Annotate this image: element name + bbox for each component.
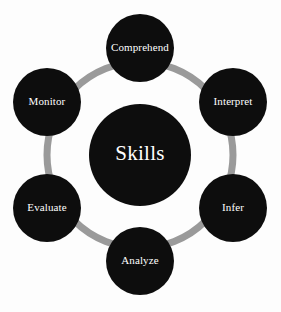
node-label-interpret: Interpret <box>214 95 253 107</box>
node-label-evaluate: Evaluate <box>27 201 66 213</box>
node-label-analyze: Analyze <box>121 254 158 266</box>
hub-label: Skills <box>115 141 165 165</box>
node-label-monitor: Monitor <box>29 95 66 107</box>
skills-cycle-diagram: ComprehendInterpretInferAnalyzeEvaluateM… <box>0 0 281 312</box>
node-label-infer: Infer <box>222 201 244 213</box>
node-label-comprehend: Comprehend <box>111 41 169 53</box>
diagram-canvas: ComprehendInterpretInferAnalyzeEvaluateM… <box>0 0 281 312</box>
